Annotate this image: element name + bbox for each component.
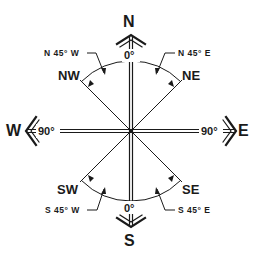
nw-arc [82,61,132,82]
south-label: S [124,233,135,249]
sw-arc-arrow-upper [88,175,94,182]
nw-arc-arrow-upper [101,68,106,75]
nw-ray [80,80,131,131]
west-label: W [6,123,21,139]
south-zero-degree: 0° [124,203,135,214]
north-zero-degree: 0° [124,50,135,61]
sw-ray [80,131,131,182]
ne-arc-arrow-upper [155,68,160,75]
ne-ray [131,80,182,131]
sw-arc-arrow-lower [101,187,106,194]
nw-arc-arrow-lower [88,80,94,87]
northeast-label: NE [182,69,200,82]
north-label: N [123,14,135,30]
ne-arc-arrow-lower [168,80,174,87]
bearing-sw: S 45° W [45,206,80,215]
bearing-se: S 45° E [178,206,210,215]
southwest-label: SW [57,183,78,196]
northwest-label: NW [58,69,80,82]
se-arc-arrow-upper [168,175,174,182]
se-arc-arrow-lower [155,187,160,194]
east-ninety-degree: 90° [201,126,218,137]
bearing-ne: N 45° E [178,49,211,58]
west-ninety-degree: 90° [38,126,55,137]
sw-leader [87,189,104,210]
sw-arc [82,181,132,202]
southeast-label: SE [182,183,199,196]
se-ray [131,131,182,182]
bearing-nw: N 45° W [44,49,79,58]
east-label: E [238,123,249,139]
